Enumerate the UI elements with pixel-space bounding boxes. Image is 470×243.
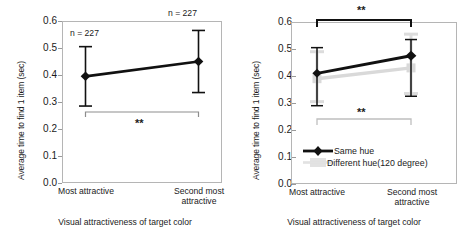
- x-tick-label: Second most attractive: [168, 187, 230, 206]
- x-tick-label: Second most attractive: [381, 188, 443, 207]
- panel-left: Average time to find 1 item (sec) 0.6 0.…: [0, 0, 235, 243]
- x-axis-title: Visual attractiveness of target color: [249, 217, 459, 227]
- panel-right: Average time to find 1 item (sec) 0.6 0.…: [235, 0, 470, 243]
- x-axis-title: Visual attractiveness of target color: [20, 217, 230, 227]
- significance-marker-bottom: **: [135, 118, 144, 129]
- significance-marker-top: **: [357, 5, 366, 16]
- significance-marker-bottom: **: [357, 107, 366, 118]
- series-layer: [0, 0, 235, 243]
- figure-two-panel-line-charts: Average time to find 1 item (sec) 0.6 0.…: [0, 0, 470, 243]
- x-tick-label: Most attractive: [46, 187, 126, 197]
- legend-label-different-hue: Different hue(120 degree): [327, 158, 428, 168]
- legend-label-same-hue: Same hue: [334, 146, 374, 156]
- x-tick-label: Most attractive: [277, 188, 357, 198]
